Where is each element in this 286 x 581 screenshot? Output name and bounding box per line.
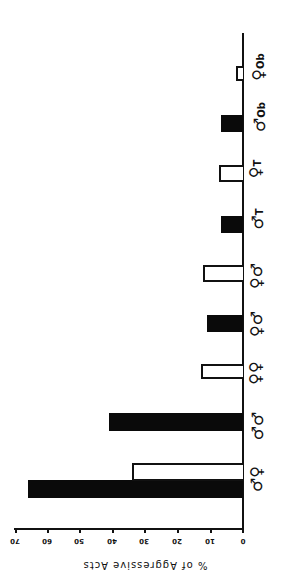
tick-label: 70 [8,537,22,545]
tick-10 [210,528,212,533]
tick-label: 0 [236,537,250,545]
tick-50 [79,528,81,533]
tick-label: 30 [137,537,151,545]
category-label-male-T: ♂T [250,208,268,229]
tick-30 [144,528,146,533]
bar-male-to-female [28,480,243,498]
bar-female-to-male-2 [203,265,243,282]
bar-female-Ob [236,66,243,81]
bar-male-T [221,216,243,233]
category-label: ♀♂ [249,311,265,337]
tick-label: 10 [203,537,217,545]
category-label-female-T: ♀T [248,160,266,179]
category-label: ♂♀ [249,466,265,492]
tick-label: 50 [72,537,86,545]
value-axis-title: % of Aggressive Acts [70,560,220,571]
tick-label: 60 [40,537,54,545]
bar-male-to-male [109,413,243,431]
category-label: ♀♀ [248,361,264,384]
tick-70 [15,528,17,533]
tick-label: 20 [170,537,184,545]
bar-female-to-male [132,463,243,481]
bar-female-to-female [201,364,243,379]
category-label: ♀♂ [249,263,265,289]
tick-20 [177,528,179,533]
category-label-male-Ob: ♂Ob [252,102,270,132]
category-label: ♂♂ [250,412,266,441]
bar-female-T [219,165,243,182]
tick-label: 40 [105,537,119,545]
category-label-female-Ob: ♀Ob [251,53,269,80]
bar-male-to-female-2 [207,315,243,332]
tick-0 [242,528,244,533]
bar-male-Ob [221,115,243,132]
rotated-bar-chart: 0 10 20 30 40 50 60 70 % of Aggressive A… [0,0,286,581]
tick-40 [112,528,114,533]
tick-60 [47,528,49,533]
